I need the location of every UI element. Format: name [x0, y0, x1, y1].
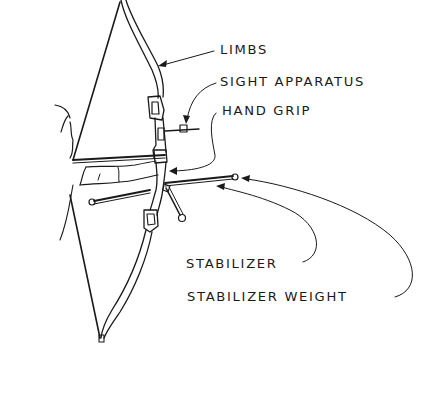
label-sight-apparatus: SIGHT APPARATUS — [220, 76, 365, 89]
archer-arm — [60, 161, 158, 240]
label-stabilizer-weight: STABILIZER WEIGHT — [187, 291, 348, 304]
lower-limb — [99, 230, 152, 342]
riser — [148, 96, 167, 163]
bow-illustration — [0, 0, 437, 402]
riser-lower — [144, 162, 166, 232]
label-limbs: LIMBS — [220, 44, 268, 57]
archer-head — [55, 105, 73, 158]
bow-string — [70, 2, 120, 338]
label-stabilizer: STABILIZER — [186, 258, 278, 271]
sight-apparatus — [165, 125, 199, 132]
upper-limb — [121, 0, 163, 98]
bow-diagram: LIMBS SIGHT APPARATUS HAND GRIP STABILIZ… — [0, 0, 437, 402]
label-hand-grip: HAND GRIP — [222, 105, 311, 118]
